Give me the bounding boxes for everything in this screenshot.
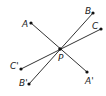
label-c: C xyxy=(92,21,99,31)
segment-a-a-prime xyxy=(31,23,87,72)
label-b: B xyxy=(85,6,91,16)
point-c xyxy=(99,27,102,30)
point-b xyxy=(91,11,94,14)
point-a xyxy=(29,21,32,24)
label-b-prime: B' xyxy=(19,78,28,88)
point-a-prime xyxy=(85,70,88,73)
point-c-prime xyxy=(19,67,22,70)
label-a-prime: A' xyxy=(84,76,94,86)
label-c-prime: C' xyxy=(10,61,19,71)
point-b-prime xyxy=(27,82,30,85)
label-p: P xyxy=(58,53,64,63)
label-a: A xyxy=(21,19,28,29)
reflection-diagram: A B C P A' B' C' xyxy=(0,0,106,96)
point-p xyxy=(58,47,62,51)
